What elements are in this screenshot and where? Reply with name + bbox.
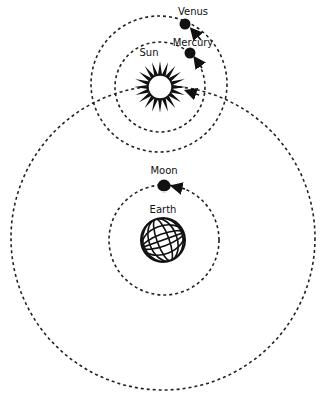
moon-label: Moon [150, 165, 177, 176]
venus-icon [180, 19, 191, 30]
moon-direction-arrow-icon [176, 187, 185, 189]
mercury-direction-arrow-icon [197, 61, 202, 68]
earth-globe-icon [135, 212, 191, 267]
sun-label: Sun [139, 47, 158, 58]
mercury-icon [185, 48, 196, 59]
venus-label: Venus [178, 6, 208, 17]
sun-icon [134, 61, 186, 113]
solar-system-diagram: Venus Mercury Sun Moon Earth [0, 0, 324, 394]
earth-label: Earth [150, 204, 177, 215]
moon-icon [157, 180, 171, 193]
mercury-label: Mercury [173, 37, 214, 48]
sun-direction-arrow-icon [190, 92, 199, 95]
